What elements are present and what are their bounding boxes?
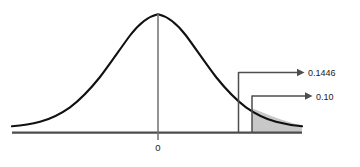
shaded-tail-region	[252, 108, 302, 132]
axis-tick-label-zero: 0	[155, 142, 160, 153]
normal-curve-chart: 0 0.1446 0.10	[0, 0, 360, 167]
normal-distribution-figure: 0 0.1446 0.10	[0, 0, 360, 167]
leader-arrowhead-upper	[297, 69, 305, 76]
leader-arrowhead-lower	[305, 92, 313, 99]
annotation-label-lower: 0.10	[316, 92, 334, 102]
normal-curve-path	[12, 14, 302, 126]
annotation-label-upper: 0.1446	[308, 68, 336, 78]
